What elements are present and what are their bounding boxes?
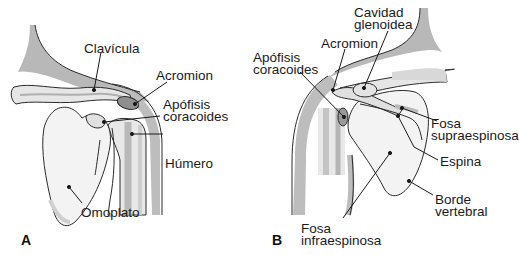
label-clavicula: Clavícula [84,42,140,55]
label-humero: Húmero [165,157,213,170]
panel-letter-b: B [272,232,282,248]
label-apofisis-a-line2: coracoides [163,110,228,123]
label-fosa-supra-line2: supraespinosa [431,129,519,142]
label-acromion-a: Acromion [156,69,213,82]
label-acromion-b: Acromion [321,37,378,50]
label-cavidad-line2: glenoidea [354,18,413,31]
label-omoplato: Omoplato [81,206,140,219]
panel-letter-a: A [21,232,31,248]
label-borde-line2: vertebral [435,205,488,218]
label-espina: Espina [440,155,481,168]
label-fosa-infra-line2: infraespinosa [301,234,381,247]
label-apofisis-b-line2: coracoides [253,63,318,76]
